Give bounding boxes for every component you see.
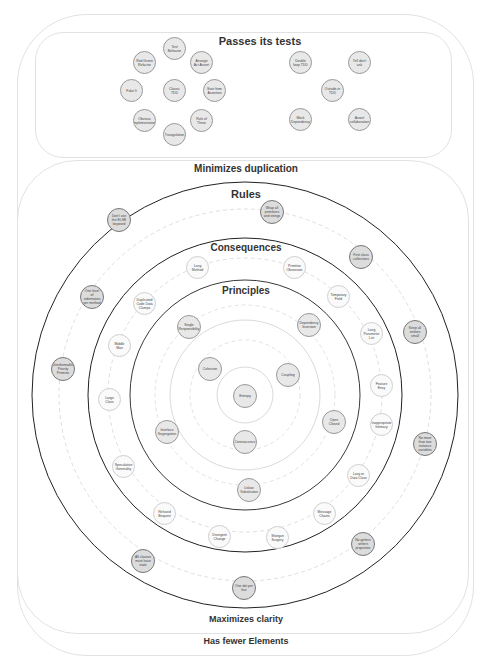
practice-arrange-act-assert: Arrange Act Assert xyxy=(190,51,213,74)
practice-triangulation: Triangulation xyxy=(163,123,186,146)
principle-single-responsibility: Single Responsibility xyxy=(177,315,201,339)
core-coupling: Coupling xyxy=(276,363,300,387)
practice-red-green-refactor: Red Green Refactor xyxy=(133,51,156,74)
rule-keep-entities-small: Keep all entities small xyxy=(403,320,427,344)
rule-two-instance-variables: No more than two instance variables xyxy=(413,432,437,456)
practice-classic-tdd: Classic TDD xyxy=(163,79,186,102)
smell-duplicated-code: Duplicated Code Data Clumps xyxy=(133,292,156,315)
principles-title: Principles xyxy=(0,285,486,296)
smell-large-class: Large Class xyxy=(98,388,121,411)
principle-dependency-inversion: Dependency Inversion xyxy=(297,313,321,337)
smell-message-chains: Message Chains xyxy=(313,502,336,525)
rule-first-class-collections: First class collections xyxy=(349,245,373,269)
core-cohesion: Cohesion xyxy=(198,357,222,381)
consequences-title: Consequences xyxy=(0,242,486,253)
rule-no-else: Don't use the ELSE keyword xyxy=(107,208,131,232)
rule-unreformable-priority-premise: Unreformable Priority Premise xyxy=(51,357,75,381)
practice-obvious-implementation: Obvious implementation xyxy=(133,109,156,132)
smell-middle-man: Middle Man xyxy=(108,334,131,357)
smell-primitive-obsession: Primitive Obsession xyxy=(283,256,306,279)
smell-shotgun-surgery: Shotgun Surgery xyxy=(266,526,289,549)
smell-long-method: Long Method xyxy=(186,256,209,279)
smell-temporary-field: Temporary Field xyxy=(327,285,350,308)
principle-interface-segregation: Interface Segregation xyxy=(155,420,179,444)
practice-start-from-assertion: Start from Assertion xyxy=(203,79,226,102)
rule-one-dot-per-line: One dot per line xyxy=(232,576,256,600)
smell-speculative-generality: Speculative Generality xyxy=(112,455,135,478)
rules-title: Rules xyxy=(0,188,486,200)
practice-rule-of-three: Rule of Three xyxy=(190,109,213,132)
smell-inappropriate-intimacy: Inappropriate Intimacy xyxy=(370,413,393,436)
principle-liskov-substitution: Liskov Substitution xyxy=(237,478,261,502)
rule-wrap-primitives: Wrap all primitives and strings xyxy=(260,200,284,224)
principle-open-closed: Open Closed xyxy=(322,410,346,434)
smell-refused-bequest: Refused Bequest xyxy=(153,502,176,525)
practice-mock-dependency: Mock Dependency xyxy=(289,108,312,131)
practice-assert-collaboration: Assert collaboration xyxy=(348,108,371,131)
practice-fake-it: Fake It xyxy=(120,79,143,102)
core-entropy: Entropy xyxy=(233,384,257,408)
smell-lazy-data-class: Lazy or Data Class xyxy=(347,464,370,487)
practice-double-loop-tdd: Double loop TDD xyxy=(289,51,312,74)
smell-long-parameter-list: Long Parameter List xyxy=(360,322,383,345)
smell-divergent-change: Divergent Change xyxy=(208,525,231,548)
practice-test-behavior: Test Behavior xyxy=(163,37,186,60)
practice-outside-in-tdd: Outside-in TDD xyxy=(321,79,344,102)
core-connascence: Connascence xyxy=(233,430,257,454)
rule-no-getters-setters: No getters setters properties xyxy=(351,532,375,556)
rule-classes-have-state: All classes must have state xyxy=(131,549,155,573)
smell-feature-envy: Feature Envy xyxy=(370,374,393,397)
practice-tell-dont-ask: Tell don't ask xyxy=(348,51,371,74)
rule-one-level-indentation: One level of indentation per method xyxy=(80,285,104,309)
